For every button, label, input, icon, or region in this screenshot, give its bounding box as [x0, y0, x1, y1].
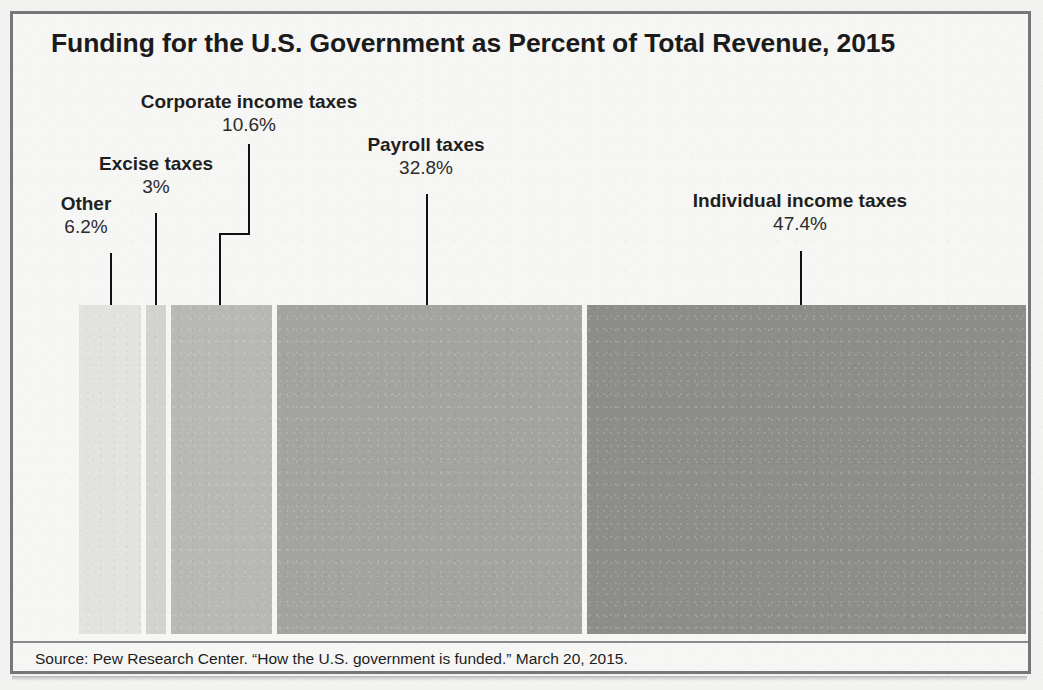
bar-segment-payroll-taxes[interactable] [277, 305, 582, 634]
leader-line-individual-income-taxes [800, 251, 802, 305]
leader-line-corporate-vertical-lower [219, 233, 221, 305]
bar-segment-excise-taxes[interactable] [146, 305, 166, 634]
callout-excise-taxes: Excise taxes 3% [71, 152, 241, 198]
callout-excise-taxes-category: Excise taxes [71, 152, 241, 175]
leader-line-other [110, 253, 112, 305]
callout-individual-income-taxes: Individual income taxes 47.4% [675, 189, 925, 235]
scanned-page: Funding for the U.S. Government as Perce… [0, 0, 1043, 690]
chart-plot-area: Other 6.2% Excise taxes 3% Corporate inc… [13, 14, 1028, 634]
source-note: Source: Pew Research Center. “How the U.… [35, 650, 628, 668]
callout-payroll-taxes-category: Payroll taxes [341, 133, 511, 156]
callout-individual-income-taxes-value: 47.4% [675, 212, 925, 235]
leader-line-corporate-vertical-upper [248, 144, 250, 234]
callout-corporate-income-taxes-value: 10.6% [124, 113, 374, 136]
callout-corporate-income-taxes: Corporate income taxes 10.6% [124, 90, 374, 136]
bar-segment-other[interactable] [79, 305, 141, 634]
callout-payroll-taxes-value: 32.8% [341, 156, 511, 179]
callout-individual-income-taxes-category: Individual income taxes [675, 189, 925, 212]
bar-segment-corporate-income-taxes[interactable] [171, 305, 272, 634]
callout-other-value: 6.2% [31, 215, 141, 238]
stacked-bar [79, 305, 1026, 634]
chart-figure: Funding for the U.S. Government as Perce… [10, 11, 1031, 674]
callout-corporate-income-taxes-category: Corporate income taxes [124, 90, 374, 113]
leader-line-payroll-taxes [426, 194, 428, 305]
callout-excise-taxes-value: 3% [71, 175, 241, 198]
bar-segment-individual-income-taxes[interactable] [587, 305, 1026, 634]
callout-other: Other 6.2% [31, 192, 141, 238]
footer-divider [13, 641, 1028, 643]
scan-shadow [12, 676, 1027, 681]
callout-payroll-taxes: Payroll taxes 32.8% [341, 133, 511, 179]
leader-line-excise-taxes [155, 213, 157, 305]
leader-line-corporate-horizontal [219, 233, 250, 235]
